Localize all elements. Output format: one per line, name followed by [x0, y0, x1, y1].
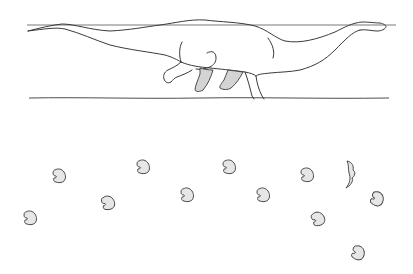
sauropod-illustration	[0, 0, 413, 274]
hind-leg-raised	[164, 62, 192, 83]
fore-leg-standing	[245, 72, 264, 99]
footprint	[350, 244, 366, 261]
footprint	[53, 169, 66, 183]
footprint	[310, 211, 326, 227]
sauropod-body	[28, 20, 386, 99]
partial-footprint	[346, 161, 355, 188]
footprint	[101, 195, 116, 211]
fore-leg-shaded	[220, 70, 243, 90]
footprint	[24, 211, 37, 225]
neck-underside	[256, 30, 360, 76]
dorsal-outline	[28, 20, 386, 42]
ground-line	[29, 98, 389, 99]
footprint	[223, 160, 236, 174]
footprint	[181, 188, 194, 202]
figure-stage: Wading sauropod dinosaur with trackway	[0, 0, 413, 274]
shoulder-contour	[268, 38, 274, 58]
footprint	[369, 190, 386, 208]
footprint	[137, 160, 150, 174]
footprint	[257, 188, 270, 202]
tail-underside	[28, 28, 181, 62]
trackway	[24, 160, 386, 262]
shaded-legs	[195, 68, 243, 92]
footprint	[301, 168, 314, 182]
hind-leg-shaded	[195, 68, 213, 92]
belly-line	[181, 62, 256, 76]
